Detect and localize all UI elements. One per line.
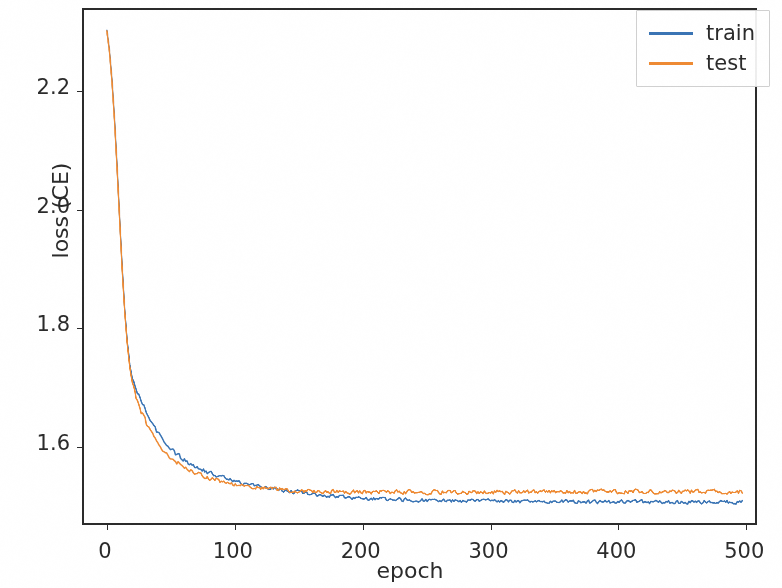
y-tick-1.6 xyxy=(77,447,84,448)
y-axis-title-text: loss (CE) xyxy=(48,163,73,259)
x-axis-title: epoch xyxy=(0,558,782,583)
y-tick-1.8 xyxy=(77,328,84,329)
chart-legend: train test xyxy=(636,10,770,87)
y-tick-2.0 xyxy=(77,210,84,211)
legend-swatch-train xyxy=(649,32,693,35)
figure: 1.61.82.02.2 0100200300400500 epoch loss… xyxy=(0,0,782,588)
y-axis-title: loss (CE) xyxy=(48,141,73,281)
x-tick-400 xyxy=(618,523,619,530)
legend-swatch-test xyxy=(649,62,693,65)
x-tick-100 xyxy=(235,523,236,530)
x-tick-300 xyxy=(491,523,492,530)
x-tick-0 xyxy=(107,523,108,530)
x-tick-200 xyxy=(363,523,364,530)
legend-label-train: train xyxy=(706,23,755,44)
legend-item-test: test xyxy=(649,48,755,78)
legend-label-test: test xyxy=(706,53,746,74)
legend-item-train: train xyxy=(649,18,755,48)
y-tick-2.2 xyxy=(77,91,84,92)
x-axis-title-text: epoch xyxy=(377,558,444,583)
x-tick-500 xyxy=(746,523,747,530)
